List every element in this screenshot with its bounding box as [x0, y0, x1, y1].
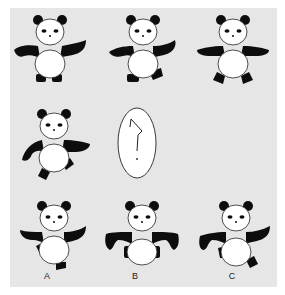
- panda-icon: [14, 192, 94, 278]
- option-c-figure[interactable]: [196, 192, 276, 278]
- option-b-figure[interactable]: [102, 192, 182, 278]
- option-a-figure[interactable]: [14, 192, 94, 278]
- panda-figure-2: [103, 6, 183, 92]
- panda-icon: [10, 6, 90, 92]
- question-oval: [117, 107, 157, 179]
- panda-figure-1: [10, 6, 90, 92]
- option-c-label[interactable]: C: [222, 271, 242, 281]
- option-a-label[interactable]: A: [37, 271, 57, 281]
- panda-icon: [193, 6, 273, 92]
- panda-icon: [102, 192, 182, 278]
- panda-icon: [14, 100, 94, 186]
- panda-icon: [196, 192, 276, 278]
- panda-icon: [103, 6, 183, 92]
- option-b-label[interactable]: B: [125, 271, 145, 281]
- panda-figure-4: [14, 100, 94, 186]
- question-mark-icon: [117, 107, 157, 179]
- panda-figure-3: [193, 6, 273, 92]
